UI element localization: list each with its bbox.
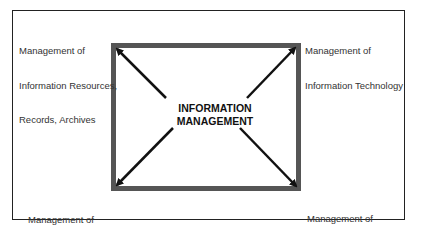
arrow-top-left (117, 49, 166, 98)
label-line: Management of (305, 45, 403, 57)
center-label-line1: INFORMATION (160, 102, 270, 115)
center-label-line2: MANAGEMENT (160, 115, 270, 128)
label-line: Management of (307, 213, 402, 225)
label-line: Information Resources, (19, 80, 117, 92)
label-bottom-right: Management of Information Processes (307, 190, 402, 233)
center-label: INFORMATION MANAGEMENT (160, 102, 270, 128)
label-line: Records, Archives (19, 114, 117, 126)
arrow-top-right (247, 48, 295, 98)
arrow-bottom-right (240, 128, 296, 186)
label-top-right: Management of Information Technology (305, 22, 403, 103)
label-line: Management of (19, 45, 117, 57)
arrow-bottom-left (117, 128, 173, 185)
label-line: Management of (28, 214, 114, 226)
label-bottom-left: Management of Information Policies, Stan… (28, 191, 114, 233)
label-top-left: Management of Information Resources, Rec… (19, 22, 117, 137)
label-line: Information Technology (305, 80, 403, 92)
